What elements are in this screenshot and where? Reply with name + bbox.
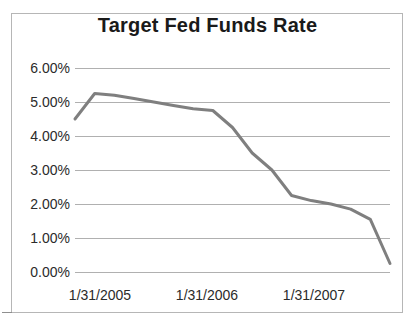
gridline-6 <box>75 68 390 69</box>
x-tick-label-2: 1/31/2007 <box>283 287 345 303</box>
y-tick-label-6: 6.00% <box>8 61 70 75</box>
gridline-0 <box>75 272 390 273</box>
y-axis-tick-labels: 6.00% 5.00% 4.00% 3.00% 2.00% 1.00% 0.00… <box>0 0 70 331</box>
gridline-5 <box>75 102 390 103</box>
y-tick-label-3: 3.00% <box>8 163 70 177</box>
y-tick-label-5: 5.00% <box>8 95 70 109</box>
gridline-4 <box>75 136 390 137</box>
plot-area <box>75 68 390 272</box>
gridline-3 <box>75 170 390 171</box>
y-tick-label-4: 4.00% <box>8 129 70 143</box>
x-tick-label-0: 1/31/2005 <box>69 287 131 303</box>
chart-figure: Target Fed Funds Rate 6.00% 5.00% 4.00% … <box>0 0 415 331</box>
gridline-1 <box>75 238 390 239</box>
y-tick-label-2: 2.00% <box>8 197 70 211</box>
gridline-2 <box>75 204 390 205</box>
x-tick-label-1: 1/31/2006 <box>176 287 238 303</box>
y-tick-label-1: 1.00% <box>8 231 70 245</box>
y-tick-label-0: 0.00% <box>8 265 70 279</box>
